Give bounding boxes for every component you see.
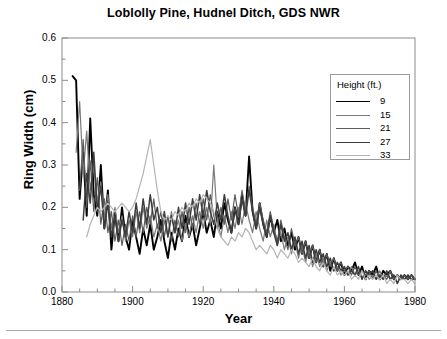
y-tick-label: 0.2: [28, 201, 56, 212]
legend: Height (ft.) 915212733: [330, 74, 410, 160]
legend-label-27: 27: [380, 136, 391, 147]
legend-swatch-9: [336, 101, 370, 102]
legend-label-33: 33: [380, 149, 391, 160]
legend-swatch-27: [336, 142, 370, 143]
legend-swatch-21: [336, 128, 370, 129]
y-tick-label: 0.4: [28, 117, 56, 128]
legend-title: Height (ft.): [337, 79, 381, 90]
legend-swatch-33: [336, 155, 370, 156]
x-axis-label: Year: [62, 311, 415, 326]
y-tick-label: 0.6: [28, 32, 56, 43]
legend-item-9: 9: [336, 95, 408, 108]
x-tick-label: 1880: [46, 296, 78, 307]
x-tick-label: 1900: [117, 296, 149, 307]
legend-label-21: 21: [380, 122, 391, 133]
legend-label-9: 9: [380, 95, 385, 106]
legend-item-27: 27: [336, 136, 408, 149]
x-tick-label: 1960: [328, 296, 360, 307]
footer-divider: [6, 330, 441, 331]
y-tick-label: 0.1: [28, 244, 56, 255]
y-tick-label: 0.0: [28, 286, 56, 297]
legend-swatch-15: [336, 115, 370, 116]
legend-item-33: 33: [336, 149, 408, 162]
x-tick-label: 1920: [187, 296, 219, 307]
x-tick-label: 1940: [258, 296, 290, 307]
plot-area: [0, 0, 447, 339]
y-tick-label: 0.5: [28, 74, 56, 85]
y-axis-label: Ring Width (cm): [21, 65, 36, 215]
legend-label-15: 15: [380, 109, 391, 120]
chart-figure: Loblolly Pine, Hudnel Ditch, GDS NWR Rin…: [0, 0, 447, 339]
legend-item-21: 21: [336, 122, 408, 135]
legend-item-15: 15: [336, 109, 408, 122]
y-tick-label: 0.3: [28, 159, 56, 170]
x-tick-label: 1980: [399, 296, 431, 307]
